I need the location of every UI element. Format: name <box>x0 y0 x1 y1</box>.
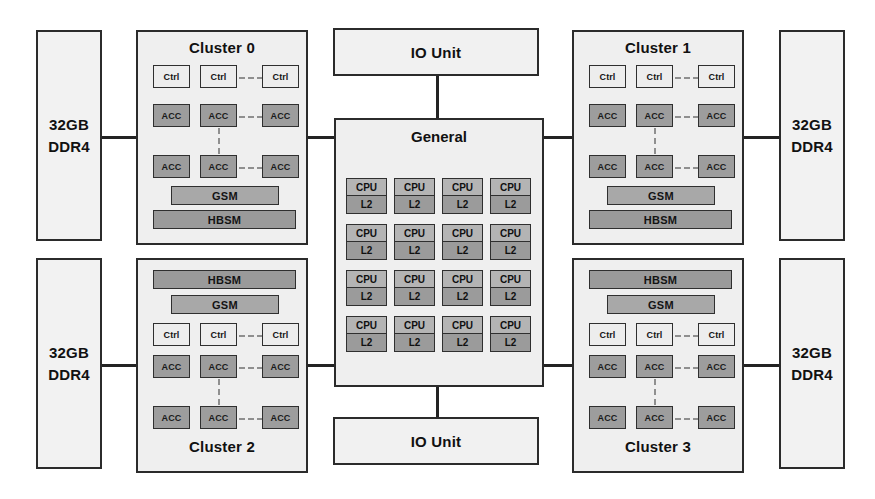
cpu-label: CPU <box>395 271 434 288</box>
cluster-2-acc-r1c0: ACC <box>153 406 190 429</box>
l2-label: L2 <box>347 334 386 351</box>
l2-label: L2 <box>491 288 530 305</box>
cluster-2-title: Cluster 2 <box>138 438 306 455</box>
link-mem-tl-to-cluster0 <box>101 136 138 139</box>
cluster-3-acc-row1-dashed-link <box>675 418 699 420</box>
cpu-core-r1c0: CPU L2 <box>346 224 387 260</box>
cluster-3-ctrl-dashed-link <box>675 335 699 337</box>
cluster-2-acc-r1c1: ACC <box>200 406 237 429</box>
cluster-2-gsm: GSM <box>171 295 279 314</box>
memory-type-label: DDR4 <box>791 136 833 158</box>
cpu-core-r0c2: CPU L2 <box>442 178 483 214</box>
l2-label: L2 <box>347 242 386 259</box>
cpu-label: CPU <box>395 179 434 196</box>
cluster-0-acc-r0c0: ACC <box>153 104 190 127</box>
cluster-1-title: Cluster 1 <box>574 39 742 56</box>
memory-block-bottom-right: 32GB DDR4 <box>779 258 845 469</box>
general-block: General CPU L2 CPU L2 CPU L2 CPU L2 CPU … <box>334 118 544 387</box>
link-cluster1-to-mem-tr <box>738 136 780 139</box>
link-mem-bl-to-cluster2 <box>101 364 138 367</box>
cluster-1-ctrl-2: Ctrl <box>698 65 735 88</box>
l2-label: L2 <box>395 242 434 259</box>
cpu-core-r3c2: CPU L2 <box>442 316 483 352</box>
cluster-1-gsm: GSM <box>607 186 715 205</box>
cluster-2-ctrl-0: Ctrl <box>153 323 190 346</box>
cpu-label: CPU <box>347 271 386 288</box>
cluster-0-ctrl-2: Ctrl <box>262 65 299 88</box>
cluster-0-gsm: GSM <box>171 186 279 205</box>
cpu-core-r3c1: CPU L2 <box>394 316 435 352</box>
cluster-1-ctrl-0: Ctrl <box>589 65 626 88</box>
l2-label: L2 <box>491 196 530 213</box>
cluster-1-hbsm: HBSM <box>589 210 732 229</box>
memory-block-top-right: 32GB DDR4 <box>779 30 845 241</box>
memory-block-bottom-left: 32GB DDR4 <box>36 258 102 469</box>
cpu-label: CPU <box>491 179 530 196</box>
cluster-1-acc-r0c0: ACC <box>589 104 626 127</box>
cluster-1: Cluster 1 Ctrl Ctrl Ctrl ACC ACC ACC ACC… <box>572 30 744 245</box>
cpu-core-r0c0: CPU L2 <box>346 178 387 214</box>
memory-size-label: 32GB <box>49 342 89 364</box>
cluster-2-ctrl-dashed-link <box>239 335 263 337</box>
cluster-0-ctrl-dashed-link <box>239 77 263 79</box>
l2-label: L2 <box>443 242 482 259</box>
cluster-3-gsm: GSM <box>607 295 715 314</box>
link-io-top-to-general <box>436 76 439 118</box>
cluster-0-ctrl-1: Ctrl <box>200 65 237 88</box>
cluster-0-acc-r1c2: ACC <box>262 155 299 178</box>
l2-label: L2 <box>395 288 434 305</box>
cpu-label: CPU <box>491 225 530 242</box>
cluster-3-ctrl-0: Ctrl <box>589 323 626 346</box>
cluster-2-ctrl-2: Ctrl <box>262 323 299 346</box>
cpu-label: CPU <box>395 225 434 242</box>
cluster-3: HBSM GSM Ctrl Ctrl Ctrl ACC ACC ACC ACC … <box>572 258 744 473</box>
cluster-2-acc-r0c2: ACC <box>262 355 299 378</box>
cluster-2-acc-row0-dashed-link <box>239 367 263 369</box>
link-general-to-cluster3 <box>540 364 573 367</box>
cluster-2-hbsm: HBSM <box>153 270 296 289</box>
cpu-core-r1c1: CPU L2 <box>394 224 435 260</box>
cpu-core-r2c2: CPU L2 <box>442 270 483 306</box>
cluster-1-acc-r1c1: ACC <box>636 155 673 178</box>
cluster-3-acc-r0c0: ACC <box>589 355 626 378</box>
cluster-1-acc-row0-dashed-link <box>675 116 699 118</box>
cluster-2: HBSM GSM Ctrl Ctrl Ctrl ACC ACC ACC ACC … <box>136 258 308 473</box>
cluster-0-hbsm: HBSM <box>153 210 296 229</box>
l2-label: L2 <box>443 196 482 213</box>
memory-block-top-left: 32GB DDR4 <box>36 30 102 241</box>
io-unit-top: IO Unit <box>333 28 539 76</box>
cpu-core-r0c1: CPU L2 <box>394 178 435 214</box>
io-unit-label: IO Unit <box>411 44 462 61</box>
cluster-1-acc-row1-dashed-link <box>675 167 699 169</box>
cluster-2-acc-r1c2: ACC <box>262 406 299 429</box>
l2-label: L2 <box>347 288 386 305</box>
link-general-to-cluster1 <box>540 136 573 139</box>
cpu-label: CPU <box>347 317 386 334</box>
cluster-3-ctrl-2: Ctrl <box>698 323 735 346</box>
cluster-1-ctrl-dashed-link <box>675 77 699 79</box>
cpu-label: CPU <box>443 225 482 242</box>
architecture-diagram: 32GB DDR4 32GB DDR4 32GB DDR4 32GB DDR4 … <box>0 0 875 499</box>
cluster-3-hbsm: HBSM <box>589 270 732 289</box>
cpu-core-r2c0: CPU L2 <box>346 270 387 306</box>
cluster-3-acc-r0c1: ACC <box>636 355 673 378</box>
cluster-0-acc-row1-dashed-link <box>239 167 263 169</box>
cpu-label: CPU <box>443 317 482 334</box>
cluster-0-ctrl-0: Ctrl <box>153 65 190 88</box>
memory-size-label: 32GB <box>792 342 832 364</box>
cluster-0-acc-r1c0: ACC <box>153 155 190 178</box>
cpu-core-r3c0: CPU L2 <box>346 316 387 352</box>
cpu-core-r2c3: CPU L2 <box>490 270 531 306</box>
cluster-1-acc-r1c0: ACC <box>589 155 626 178</box>
cpu-label: CPU <box>491 317 530 334</box>
cpu-label: CPU <box>443 179 482 196</box>
l2-label: L2 <box>443 288 482 305</box>
l2-label: L2 <box>347 196 386 213</box>
cpu-core-r0c3: CPU L2 <box>490 178 531 214</box>
cluster-2-acc-row1-dashed-link <box>239 418 263 420</box>
io-unit-label: IO Unit <box>411 433 462 450</box>
io-unit-bottom: IO Unit <box>333 417 539 465</box>
link-general-to-io-bottom <box>436 383 439 417</box>
cpu-core-r2c1: CPU L2 <box>394 270 435 306</box>
cpu-label: CPU <box>491 271 530 288</box>
